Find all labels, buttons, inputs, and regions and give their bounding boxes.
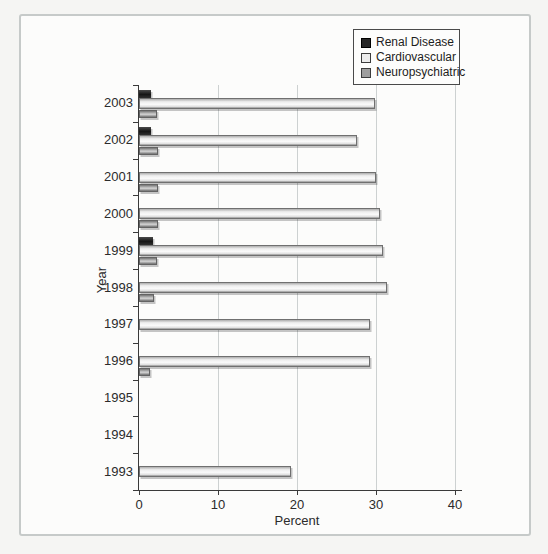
bar-cardiovascular-2001 bbox=[139, 172, 376, 183]
bar-neuropsychiatric-1999 bbox=[139, 257, 157, 265]
legend: Renal DiseaseCardiovascularNeuropsychiat… bbox=[353, 29, 460, 85]
y-tick-1995 bbox=[133, 380, 138, 381]
year-label-2001: 2001 bbox=[81, 170, 133, 184]
y-tick-1993 bbox=[133, 453, 138, 454]
legend-label: Cardiovascular bbox=[376, 51, 456, 64]
bar-cardiovascular-2003 bbox=[139, 98, 375, 109]
bar-cardiovascular-1997 bbox=[139, 319, 370, 330]
x-tick-label-0: 0 bbox=[119, 498, 159, 511]
chart-frame: 0102030402003200220012000199919981997199… bbox=[19, 14, 531, 536]
bar-neuropsychiatric-2002 bbox=[139, 147, 158, 155]
year-label-2002: 2002 bbox=[81, 133, 133, 147]
legend-item-renal-disease: Renal Disease bbox=[361, 35, 453, 50]
year-label-1996: 1996 bbox=[81, 354, 133, 368]
x-axis-title: Percent bbox=[139, 513, 455, 528]
x-tick-label-20: 20 bbox=[277, 498, 317, 511]
bar-renal-disease-2003 bbox=[139, 90, 151, 98]
bar-cardiovascular-1998 bbox=[139, 282, 387, 293]
year-label-1995: 1995 bbox=[81, 391, 133, 405]
y-tick-1997 bbox=[133, 306, 138, 307]
y-tick-1998 bbox=[133, 269, 138, 270]
bar-renal-disease-2002 bbox=[139, 127, 151, 135]
legend-swatch-icon bbox=[361, 68, 371, 78]
year-label-1994: 1994 bbox=[81, 428, 133, 442]
bar-renal-disease-1999 bbox=[139, 237, 153, 245]
bar-neuropsychiatric-1998 bbox=[139, 294, 154, 302]
x-tick-label-30: 30 bbox=[356, 498, 396, 511]
legend-item-neuropsychiatric: Neuropsychiatric bbox=[361, 65, 453, 80]
bar-cardiovascular-2000 bbox=[139, 208, 380, 219]
year-label-1993: 1993 bbox=[81, 465, 133, 479]
y-axis-title: Year bbox=[94, 260, 108, 300]
x-tick-label-10: 10 bbox=[198, 498, 238, 511]
bar-cardiovascular-2002 bbox=[139, 135, 357, 146]
legend-swatch-icon bbox=[361, 38, 371, 48]
y-tick-1996 bbox=[133, 343, 138, 344]
year-label-2003: 2003 bbox=[81, 96, 133, 110]
gridline-40 bbox=[455, 85, 456, 490]
y-tick-2003 bbox=[133, 85, 138, 86]
year-label-1997: 1997 bbox=[81, 317, 133, 331]
screenshot-root: { "legend": { "items": [ { "label": "Ren… bbox=[0, 0, 548, 554]
bar-cardiovascular-1996 bbox=[139, 356, 370, 367]
x-tick-label-40: 40 bbox=[435, 498, 475, 511]
bar-neuropsychiatric-2000 bbox=[139, 220, 158, 228]
y-tick-2001 bbox=[133, 159, 138, 160]
y-tick-2002 bbox=[133, 122, 138, 123]
y-tick-1999 bbox=[133, 232, 138, 233]
bar-neuropsychiatric-1996 bbox=[139, 368, 150, 376]
year-label-2000: 2000 bbox=[81, 207, 133, 221]
y-tick-1994 bbox=[133, 416, 138, 417]
y-tick-2000 bbox=[133, 195, 138, 196]
legend-item-cardiovascular: Cardiovascular bbox=[361, 50, 453, 65]
legend-label: Neuropsychiatric bbox=[376, 66, 465, 79]
bar-cardiovascular-1993 bbox=[139, 466, 291, 477]
legend-label: Renal Disease bbox=[376, 36, 454, 49]
bar-neuropsychiatric-2003 bbox=[139, 110, 157, 118]
bar-cardiovascular-1999 bbox=[139, 245, 383, 256]
y-tick-bottom bbox=[133, 490, 138, 491]
year-label-1999: 1999 bbox=[81, 244, 133, 258]
legend-swatch-icon bbox=[361, 53, 371, 63]
bar-neuropsychiatric-2001 bbox=[139, 184, 158, 192]
x-axis-line bbox=[138, 490, 462, 491]
